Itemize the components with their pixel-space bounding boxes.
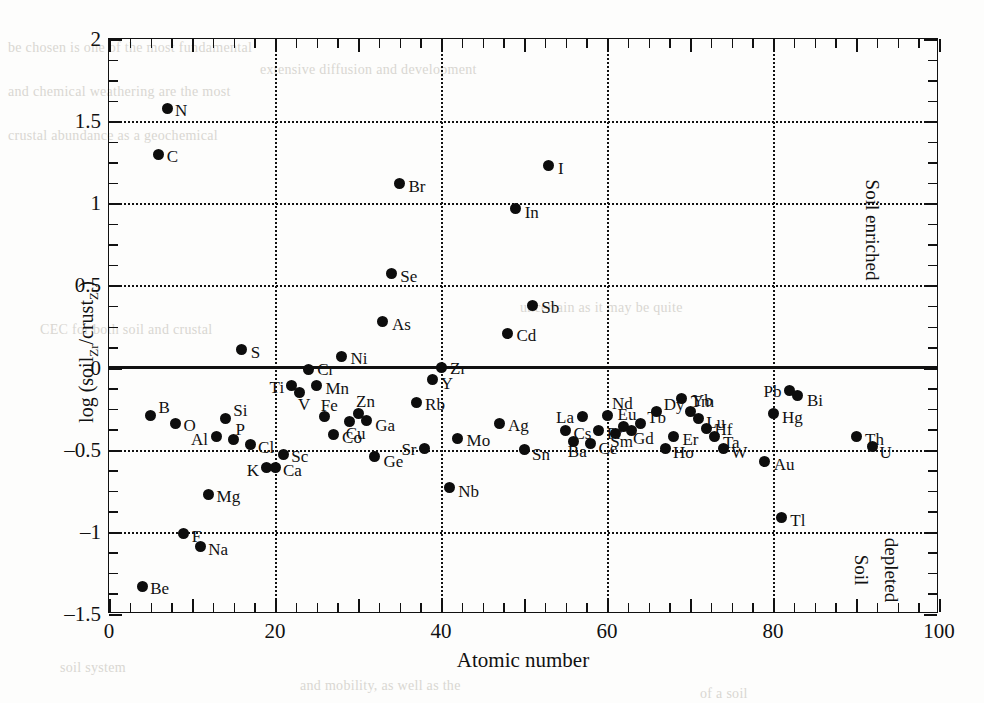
tick-mark-y [109,491,118,493]
tick-mark-x [586,603,588,612]
data-point-label-w: W [731,444,747,461]
data-point-label-ga: Ga [375,417,395,434]
data-point-label-na: Na [208,541,228,558]
tick-mark-x [400,39,402,48]
x-tick-label: 0 [104,619,115,644]
data-point-be [137,581,148,592]
tick-mark-x [275,39,277,52]
y-tick-label: –1 [80,519,101,544]
tick-mark-x [213,603,215,612]
tick-mark-y [928,101,937,103]
data-point-label-ni: Ni [350,350,367,367]
tick-mark-x [918,39,920,48]
data-point-label-sm: Sm [610,433,633,450]
tick-mark-y [109,101,118,103]
tick-mark-x [151,39,153,48]
gridline-horizontal [109,121,937,123]
data-point-label-y: Y [441,375,453,392]
data-point-ho [660,443,671,454]
tick-mark-y [109,244,118,246]
data-point-b [145,410,156,421]
tick-mark-x [192,39,194,52]
data-point-tb [635,418,646,429]
annotation-soil-depleted-line2: depleted [880,538,902,602]
data-point-bi [792,390,803,401]
tick-mark-x [171,39,173,48]
data-point-rb [411,397,422,408]
data-point-label-si: Si [233,402,247,419]
tick-mark-x [275,599,277,612]
tick-mark-y [109,121,122,123]
data-point-label-br: Br [409,178,426,195]
y-tick-label: 0 [91,355,102,380]
tick-mark-y [924,450,937,452]
tick-mark-y [928,244,937,246]
data-point-sn [519,444,530,455]
data-point-label-eu: Eu [618,406,637,423]
tick-mark-y [924,368,937,370]
tick-mark-x [856,599,858,612]
data-point-sr [419,443,430,454]
gridline-vertical [441,39,443,612]
data-point-label-ba: Ba [568,443,587,460]
data-point-label-ag: Ag [508,417,529,434]
tick-mark-x [815,603,817,612]
gridline-vertical [773,39,775,612]
tick-mark-x [420,39,422,48]
tick-mark-x [337,39,339,48]
tick-mark-x [649,39,651,48]
tick-mark-y [924,39,937,41]
data-point-ge [369,451,380,462]
tick-mark-x [566,603,568,612]
data-point-na [195,541,206,552]
data-point-label-al: Al [191,431,208,448]
tick-mark-x [524,599,526,612]
data-point-label-bi: Bi [807,392,823,409]
tick-mark-x [752,603,754,612]
data-point-y [427,374,438,385]
tick-mark-y [109,552,118,554]
tick-mark-x [317,603,319,612]
data-point-label-sr: Sr [401,441,416,458]
data-point-label-ti: Ti [270,379,285,396]
tick-mark-x [898,39,900,48]
bleed-text-8: and mobility, as well as the [300,678,461,694]
data-point-label-b: B [159,399,170,416]
tick-mark-y [109,409,118,411]
tick-mark-y [928,60,937,62]
data-point-label-be: Be [150,580,169,597]
tick-mark-y [109,265,118,267]
tick-mark-y [924,532,937,534]
y-tick-label: –0.5 [64,437,101,462]
tick-mark-y [109,593,118,595]
tick-mark-x [856,39,858,52]
tick-mark-x [773,39,775,52]
tick-mark-y [109,60,118,62]
y-tick-label: –1.5 [64,602,101,627]
tick-mark-y [109,573,118,575]
tick-mark-y [928,265,937,267]
tick-mark-y [928,162,937,164]
tick-mark-y [109,285,122,287]
data-point-label-s: S [251,344,260,361]
tick-mark-y [928,552,937,554]
data-point-f [178,528,189,539]
data-point-sb [527,300,538,311]
tick-mark-y [924,614,937,616]
tick-mark-x [358,39,360,52]
tick-mark-y [109,80,118,82]
tick-mark-x [234,603,236,612]
data-point-label-mg: Mg [217,488,241,505]
tick-mark-x [296,603,298,612]
data-point-label-la: La [556,409,574,426]
data-point-label-u: U [880,444,892,461]
tick-mark-x [483,603,485,612]
data-point-label-cd: Cd [516,327,536,344]
tick-mark-x [441,599,443,612]
data-point-cr [303,364,314,375]
tick-mark-x [462,39,464,48]
tick-mark-x [732,603,734,612]
data-point-pr [593,425,604,436]
tick-mark-x [918,603,920,612]
data-point-label-v: V [298,396,310,413]
